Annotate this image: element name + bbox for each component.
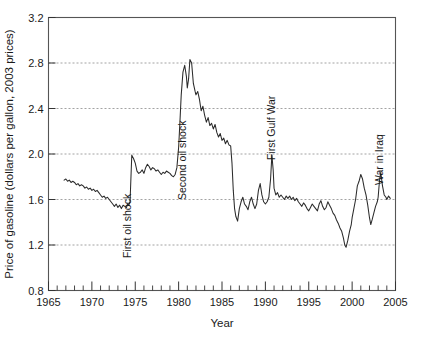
y-axis-tick-label: 2.4 bbox=[28, 103, 43, 115]
grid-lines bbox=[49, 63, 396, 245]
y-axis-title: Price of gasoline (dollars per gallon, 2… bbox=[3, 29, 15, 278]
x-axis-tick-label: 1975 bbox=[123, 296, 147, 308]
x-axis-tick-label: 2005 bbox=[383, 296, 407, 308]
series-line-gasoline-price bbox=[64, 60, 390, 248]
x-axis-tick-labels: 196519701975198019851990199520002005 bbox=[36, 296, 407, 308]
x-axis-tick-label: 2000 bbox=[340, 296, 364, 308]
x-axis-tick-label: 1980 bbox=[166, 296, 190, 308]
data-series-group bbox=[64, 60, 390, 248]
annotations-group: First oil shockSecond oil shockFirst Gul… bbox=[121, 95, 385, 258]
y-axis-tick-label: 1.2 bbox=[28, 239, 43, 251]
y-axis-tick-label: 3.2 bbox=[28, 12, 43, 24]
y-axis-tick-label: 2.0 bbox=[28, 148, 43, 160]
x-axis-tick-label: 1990 bbox=[253, 296, 277, 308]
annotation-war-in-iraq: War in Iraq bbox=[373, 134, 385, 185]
annotation-first-gulf-war: First Gulf War bbox=[265, 95, 277, 160]
annotation-second-oil-shock: Second oil shock bbox=[176, 120, 188, 200]
chart-canvas: 0.81.21.62.02.42.83.2 196519701975198019… bbox=[0, 0, 435, 338]
x-axis-title: Year bbox=[210, 317, 233, 329]
annotation-first-oil-shock: First oil shock bbox=[121, 193, 133, 258]
x-axis-tick-label: 1995 bbox=[297, 296, 321, 308]
y-axis-tick-label: 1.6 bbox=[28, 194, 43, 206]
x-axis-tick-label: 1985 bbox=[210, 296, 234, 308]
x-axis-tick-label: 1970 bbox=[80, 296, 104, 308]
x-axis-tick-label: 1965 bbox=[36, 296, 60, 308]
gasoline-price-chart-figure: 0.81.21.62.02.42.83.2 196519701975198019… bbox=[0, 0, 435, 338]
y-axis-tick-label: 2.8 bbox=[28, 57, 43, 69]
y-axis-tick-labels: 0.81.21.62.02.42.83.2 bbox=[28, 12, 43, 297]
y-axis-ticks bbox=[49, 18, 56, 291]
